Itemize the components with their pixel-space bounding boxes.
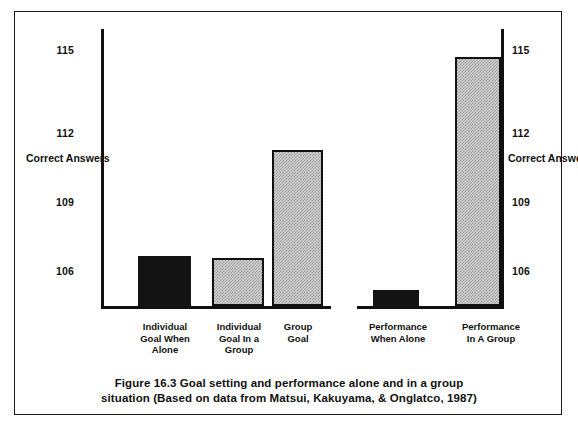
y-axis-title-right: Correct Answers (508, 152, 564, 164)
x-axis-category-label-group-goal: Group Goal (259, 321, 337, 344)
y-axis-tick-label-right-106: 106 (512, 266, 552, 277)
bar-performance-when-alone (373, 290, 419, 306)
bar-individual-goal-in-a-group (212, 258, 264, 306)
x-axis-category-label-performance-when-alone: Performance When Alone (350, 321, 446, 344)
y-axis-spine-left (101, 29, 104, 309)
y-axis-tick-label-right-109: 109 (512, 197, 552, 208)
y-axis-tick-label-right-115: 115 (512, 45, 552, 56)
figure-caption: Figure 16.3 Goal setting and performance… (35, 376, 543, 406)
y-axis-spine-right (501, 29, 504, 309)
y-axis-tick-label-left-106: 106 (38, 266, 74, 277)
bar-individual-goal-when-alone (138, 256, 191, 306)
bar-performance-in-a-group (455, 57, 501, 306)
figure-16-3: 115 112 Correct Answers 109 106 115 112 … (0, 0, 578, 431)
y-axis-tick-label-left-112: 112 (38, 128, 74, 139)
x-axis-category-label-performance-in-a-group: Performance In A Group (443, 321, 539, 344)
y-axis-tick-label-left-115: 115 (38, 45, 74, 56)
y-axis-tick-label-left-109: 109 (38, 197, 74, 208)
y-axis-title-left: Correct Answers (26, 152, 74, 164)
bar-group-goal (272, 150, 323, 306)
y-axis-tick-label-right-112: 112 (512, 128, 552, 139)
x-axis-baseline-left-panel (101, 306, 331, 309)
x-axis-baseline-right-panel (357, 306, 504, 309)
